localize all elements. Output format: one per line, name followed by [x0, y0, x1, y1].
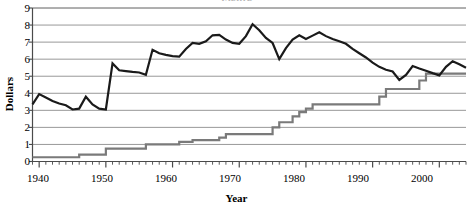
x-tick-label: 1990: [338, 173, 378, 184]
series-line-real-minimum-wage: [33, 24, 467, 109]
x-tick-label: 2000: [402, 173, 442, 184]
y-tick-label: 0: [16, 156, 30, 167]
clipped-title-fragment: Figure: [0, 0, 473, 1]
x-tick-label: 1970: [210, 173, 250, 184]
x-axis-ticks: [33, 162, 467, 168]
y-tick-label: 7: [16, 37, 30, 48]
y-tick-label: 4: [16, 88, 30, 99]
x-tick-label: 1960: [146, 173, 186, 184]
y-axis-title: Dollars: [3, 64, 15, 124]
y-tick-label: 5: [16, 71, 30, 82]
y-tick-label: 9: [16, 3, 30, 14]
y-tick-label: 8: [16, 20, 30, 31]
x-tick-label: 1950: [82, 173, 122, 184]
x-tick-label: 1980: [274, 173, 314, 184]
x-tick-label: 1940: [18, 173, 58, 184]
y-tick-label: 2: [16, 122, 30, 133]
y-tick-label: 1: [16, 139, 30, 150]
chart-figure: Figure Dollars Year 9 8 7 6 5 4 3 2 1 0 …: [0, 0, 473, 209]
gridlines: [29, 8, 466, 162]
y-tick-label: 3: [16, 105, 30, 116]
x-axis-title: Year: [0, 192, 473, 204]
y-tick-label: 6: [16, 54, 30, 65]
